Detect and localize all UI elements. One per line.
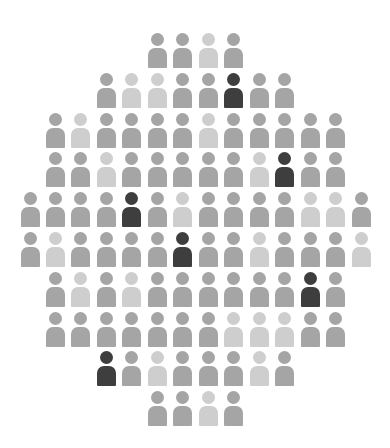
- person-body: [173, 167, 192, 187]
- person-head: [202, 312, 215, 325]
- person-body: [275, 327, 294, 347]
- person-icon-medium: [173, 152, 192, 187]
- person-head: [253, 312, 266, 325]
- person-head: [100, 232, 113, 245]
- person-body: [326, 207, 345, 227]
- person-head: [176, 391, 189, 404]
- person-icon-medium: [250, 192, 269, 227]
- person-icon-light: [352, 232, 371, 267]
- person-head: [125, 312, 138, 325]
- person-body: [21, 247, 40, 267]
- person-body: [199, 247, 218, 267]
- person-body: [301, 128, 320, 148]
- person-icon-medium: [326, 312, 345, 347]
- person-icon-medium: [71, 232, 90, 267]
- person-icon-medium: [97, 192, 116, 227]
- person-icon-medium: [148, 152, 167, 187]
- person-head: [253, 113, 266, 126]
- person-icon-medium: [97, 312, 116, 347]
- person-head: [176, 232, 189, 245]
- person-head: [253, 73, 266, 86]
- person-head: [202, 73, 215, 86]
- person-head: [278, 113, 291, 126]
- person-head: [125, 152, 138, 165]
- person-icon-medium: [301, 232, 320, 267]
- person-head: [176, 152, 189, 165]
- person-icon-medium: [71, 152, 90, 187]
- person-icon-medium: [173, 272, 192, 307]
- person-body: [352, 247, 371, 267]
- person-icon-medium: [148, 391, 167, 426]
- person-body: [199, 128, 218, 148]
- person-head: [278, 73, 291, 86]
- person-icon-medium: [71, 312, 90, 347]
- person-icon-dark: [224, 73, 243, 108]
- person-body: [301, 247, 320, 267]
- person-head: [278, 312, 291, 325]
- person-icon-medium: [199, 312, 218, 347]
- person-head: [304, 312, 317, 325]
- person-icon-dark: [122, 192, 141, 227]
- person-head: [329, 272, 342, 285]
- person-body: [122, 167, 141, 187]
- person-body: [326, 327, 345, 347]
- person-head: [227, 192, 240, 205]
- person-icon-medium: [173, 113, 192, 148]
- person-head: [100, 272, 113, 285]
- person-head: [49, 232, 62, 245]
- person-body: [199, 88, 218, 108]
- person-head: [49, 192, 62, 205]
- person-head: [227, 351, 240, 364]
- person-icon-medium: [148, 33, 167, 68]
- person-head: [253, 152, 266, 165]
- person-head: [202, 391, 215, 404]
- person-body: [173, 128, 192, 148]
- person-icon-dark: [301, 272, 320, 307]
- person-icon-medium: [199, 232, 218, 267]
- person-body: [71, 247, 90, 267]
- person-head: [176, 33, 189, 46]
- person-head: [100, 152, 113, 165]
- person-body: [148, 48, 167, 68]
- person-body: [326, 128, 345, 148]
- person-body: [326, 247, 345, 267]
- person-icon-medium: [122, 152, 141, 187]
- person-head: [74, 232, 87, 245]
- person-icon-light: [122, 73, 141, 108]
- person-body: [224, 247, 243, 267]
- person-head: [329, 192, 342, 205]
- person-head: [151, 33, 164, 46]
- person-body: [301, 207, 320, 227]
- person-head: [227, 73, 240, 86]
- person-head: [74, 192, 87, 205]
- person-icon-medium: [71, 192, 90, 227]
- person-head: [253, 351, 266, 364]
- person-body: [352, 207, 371, 227]
- person-head: [74, 312, 87, 325]
- person-head: [151, 312, 164, 325]
- person-head: [24, 192, 37, 205]
- person-body: [301, 167, 320, 187]
- person-icon-medium: [224, 272, 243, 307]
- person-icon-medium: [326, 113, 345, 148]
- person-icon-light: [250, 152, 269, 187]
- person-body: [122, 287, 141, 307]
- person-body: [97, 88, 116, 108]
- person-body: [71, 327, 90, 347]
- person-head: [151, 351, 164, 364]
- person-body: [148, 207, 167, 227]
- person-icon-medium: [224, 232, 243, 267]
- person-icon-light: [173, 192, 192, 227]
- person-icon-medium: [224, 391, 243, 426]
- person-icon-medium: [275, 351, 294, 386]
- person-head: [125, 73, 138, 86]
- person-body: [326, 287, 345, 307]
- pictogram-chart: [0, 0, 390, 448]
- person-head: [202, 351, 215, 364]
- person-head: [100, 73, 113, 86]
- person-icon-medium: [275, 73, 294, 108]
- person-icon-medium: [21, 232, 40, 267]
- person-icon-medium: [46, 312, 65, 347]
- person-head: [227, 232, 240, 245]
- person-body: [46, 247, 65, 267]
